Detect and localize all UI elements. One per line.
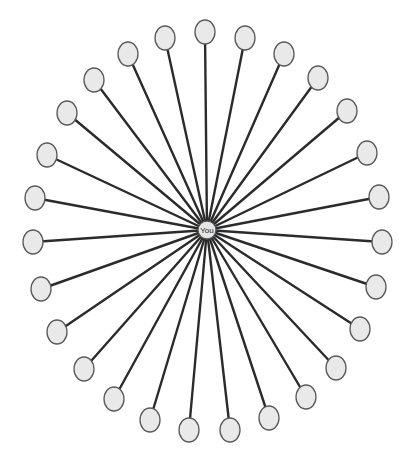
leaf-node[interactable] bbox=[274, 42, 294, 66]
leaf-node[interactable] bbox=[350, 317, 370, 341]
leaf-node[interactable] bbox=[369, 185, 389, 209]
edge bbox=[207, 230, 360, 329]
center-node-label: You bbox=[200, 226, 214, 235]
edge bbox=[207, 230, 230, 430]
leaf-node[interactable] bbox=[37, 143, 57, 167]
leaf-node[interactable] bbox=[337, 99, 357, 123]
leaf-node[interactable] bbox=[155, 26, 175, 50]
leaf-node[interactable] bbox=[357, 141, 377, 165]
edge bbox=[35, 198, 207, 230]
edge bbox=[207, 153, 367, 230]
leaf-node[interactable] bbox=[296, 385, 316, 409]
edge bbox=[207, 230, 382, 242]
leaf-node[interactable] bbox=[235, 26, 255, 50]
leaf-node[interactable] bbox=[179, 418, 199, 442]
leaf-node[interactable] bbox=[25, 186, 45, 210]
leaf-node[interactable] bbox=[84, 68, 104, 92]
leaf-node[interactable] bbox=[74, 357, 94, 381]
leaf-node[interactable] bbox=[259, 406, 279, 430]
leaf-node[interactable] bbox=[372, 230, 392, 254]
leaf-node[interactable] bbox=[326, 356, 346, 380]
leaf-node[interactable] bbox=[118, 42, 138, 66]
edge bbox=[207, 230, 269, 418]
leaf-node[interactable] bbox=[104, 387, 124, 411]
edge bbox=[207, 197, 379, 230]
leaf-node[interactable] bbox=[308, 66, 328, 90]
leaf-node[interactable] bbox=[47, 320, 67, 344]
edge bbox=[57, 230, 207, 332]
edge bbox=[207, 230, 306, 397]
leaf-node[interactable] bbox=[31, 277, 51, 301]
leaf-node[interactable] bbox=[366, 275, 386, 299]
edge bbox=[205, 32, 207, 230]
leaf-node[interactable] bbox=[140, 408, 160, 432]
edge bbox=[47, 155, 207, 230]
leaf-node[interactable] bbox=[57, 101, 77, 125]
leaf-node[interactable] bbox=[23, 230, 43, 254]
star-network-diagram: You bbox=[0, 0, 415, 471]
leaf-node[interactable] bbox=[220, 418, 240, 442]
leaf-node[interactable] bbox=[195, 20, 215, 44]
center-node-group: You bbox=[198, 221, 216, 239]
